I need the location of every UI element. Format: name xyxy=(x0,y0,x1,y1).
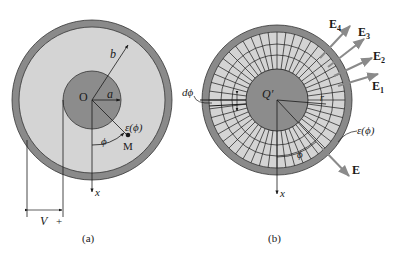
label-epsilon: ε(ϕ) xyxy=(357,124,375,137)
label-e4: E4 xyxy=(329,17,341,33)
label-dphi: dϕ xyxy=(182,86,194,98)
figure-b: E4 E3 E2 E1 E Q′ r dϕ ε(ϕ) ϕ x (b) xyxy=(182,17,385,245)
label-q: Q′ xyxy=(262,87,274,101)
label-v: V xyxy=(40,214,49,228)
label-o: O xyxy=(79,90,88,104)
label-phi: ϕ xyxy=(297,148,303,160)
caption-b: (b) xyxy=(268,232,281,245)
label-plus: + xyxy=(56,215,62,227)
field-vector-e xyxy=(322,148,349,176)
coax-diagrams: O a b ε(ϕ) M ϕ x V + (a) xyxy=(0,0,401,257)
label-phi: ϕ xyxy=(101,135,107,147)
label-e2: E2 xyxy=(373,49,385,65)
point-m-dot xyxy=(126,133,131,138)
label-x: x xyxy=(94,186,100,198)
label-b: b xyxy=(110,47,116,61)
label-epsilon: ε(ϕ) xyxy=(125,121,143,134)
label-r: r xyxy=(320,92,324,103)
label-e3: E3 xyxy=(358,25,370,41)
label-x: x xyxy=(279,187,285,199)
caption-a: (a) xyxy=(82,232,95,245)
figure-a: O a b ε(ϕ) M ϕ x V + (a) xyxy=(12,20,172,245)
label-e1: E1 xyxy=(372,79,384,95)
label-e: E xyxy=(352,163,360,177)
label-a: a xyxy=(107,87,113,101)
label-m: M xyxy=(123,140,133,152)
